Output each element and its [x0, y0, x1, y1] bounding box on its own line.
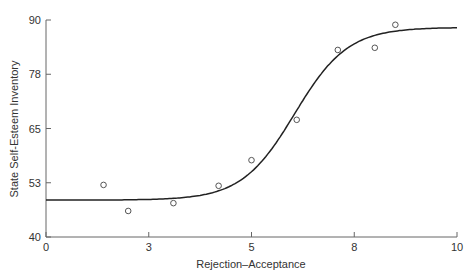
data-point-marker: [101, 182, 107, 188]
data-point-marker: [393, 22, 399, 28]
x-tick-label: 10: [451, 241, 463, 253]
data-points: [101, 22, 398, 214]
axes: 0358104053657890: [29, 14, 463, 253]
y-tick-label: 78: [29, 68, 41, 80]
data-point-marker: [294, 117, 300, 123]
curve-line: [46, 28, 457, 200]
y-tick-label: 40: [29, 231, 41, 243]
x-axis-label: Rejection–Acceptance: [196, 258, 305, 270]
data-point-marker: [216, 183, 222, 189]
data-point-marker: [335, 47, 341, 53]
x-tick-label: 5: [248, 241, 254, 253]
y-tick-label: 65: [29, 123, 41, 135]
data-point-marker: [249, 157, 255, 163]
x-tick-label: 0: [43, 241, 49, 253]
y-axis-label: State Self-Esteem Inventory: [8, 60, 20, 197]
y-tick-label: 53: [29, 177, 41, 189]
x-tick-label: 3: [146, 241, 152, 253]
data-point-marker: [171, 200, 177, 206]
data-point-marker: [125, 208, 131, 214]
fitted-curve: [46, 28, 457, 200]
x-tick-label: 8: [351, 241, 357, 253]
y-tick-label: 90: [29, 14, 41, 26]
chart: 0358104053657890 Rejection–Acceptance St…: [0, 0, 472, 279]
data-point-marker: [372, 45, 378, 51]
